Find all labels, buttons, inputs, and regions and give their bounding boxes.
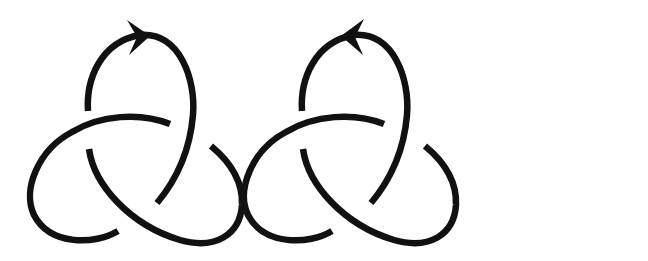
knot-diagram bbox=[162, 0, 486, 261]
trefoil-knot-right: Trefoil knot, orientation arrow pointing… bbox=[162, 0, 486, 261]
